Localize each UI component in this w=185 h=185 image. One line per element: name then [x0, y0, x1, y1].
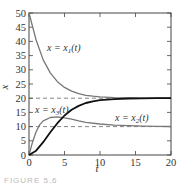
- x-tick-label: 15: [130, 157, 141, 168]
- label-x1: x = x1(t): [46, 42, 81, 55]
- y-tick-label: 20: [16, 93, 27, 104]
- y-tick-label: 35: [16, 50, 27, 61]
- x-tick-label: 0: [26, 157, 31, 168]
- line-chart: 0510152005101520253035404550 x = x1(t) x…: [0, 0, 185, 185]
- figure-caption: FIGURE 5.6: [4, 176, 58, 185]
- y-tick-label: 10: [16, 121, 27, 132]
- y-tick-label: 45: [16, 22, 27, 33]
- y-tick-label: 15: [16, 107, 27, 118]
- series-line-2: [29, 117, 171, 155]
- series-line-1: [29, 13, 171, 98]
- y-tick-label: 0: [21, 150, 26, 161]
- y-tick-label: 5: [21, 135, 26, 146]
- y-axis-label: x: [0, 84, 10, 90]
- axis-ticks: 0510152005101520253035404550: [16, 8, 177, 169]
- y-tick-label: 25: [16, 79, 27, 90]
- x-tick-label: 5: [62, 157, 67, 168]
- y-tick-label: 40: [16, 36, 27, 47]
- x-tick-label: 20: [166, 157, 177, 168]
- series-lines: [29, 13, 171, 155]
- y-tick-label: 30: [16, 64, 27, 75]
- label-x2: x = x2(t): [114, 112, 149, 125]
- y-tick-label: 50: [16, 8, 27, 19]
